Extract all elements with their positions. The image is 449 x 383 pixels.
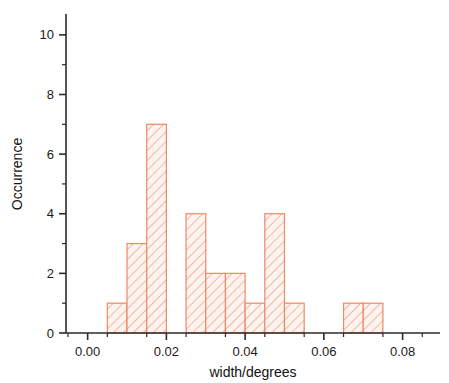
y-tick-label: 8: [47, 87, 54, 102]
x-tick-label: 0.06: [311, 344, 336, 359]
histogram-bar: [344, 303, 364, 333]
x-axis-title: width/degrees: [208, 364, 296, 380]
histogram-chart: 0.000.020.040.060.08 0246810 width/degre…: [0, 0, 449, 383]
histogram-bar: [186, 214, 206, 333]
histogram-bar: [225, 273, 245, 333]
x-tick-label: 0.04: [232, 344, 257, 359]
y-tick-label: 0: [47, 326, 54, 341]
histogram-bar: [245, 303, 265, 333]
x-tick-label: 0.00: [75, 344, 100, 359]
histogram-bar: [206, 273, 226, 333]
histogram-bar: [265, 214, 285, 333]
plot-area: 0.000.020.040.060.08 0246810 width/degre…: [0, 0, 449, 383]
histogram-bar: [127, 244, 147, 333]
y-tick-label: 2: [47, 266, 54, 281]
histogram-bar: [147, 124, 167, 333]
histogram-bar: [107, 303, 127, 333]
histogram-bar: [284, 303, 304, 333]
x-tick-label: 0.08: [390, 344, 415, 359]
y-tick-label: 10: [40, 27, 54, 42]
y-tick-label: 4: [47, 206, 54, 221]
histogram-bar: [363, 303, 383, 333]
x-tick-label: 0.02: [154, 344, 179, 359]
y-axis-title: Occurrence: [9, 138, 25, 211]
y-tick-label: 6: [47, 147, 54, 162]
